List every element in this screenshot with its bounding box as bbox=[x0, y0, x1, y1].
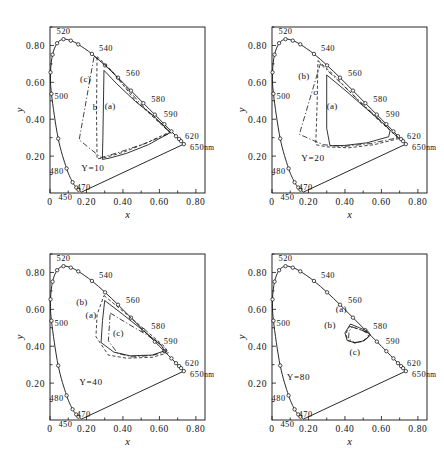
x-tick-label: 0.40 bbox=[113, 197, 132, 207]
y-tick-label: 0.80 bbox=[248, 268, 267, 278]
wavelength-marker bbox=[179, 139, 182, 142]
wavelength-marker bbox=[273, 53, 276, 56]
wavelength-marker bbox=[90, 52, 93, 55]
wavelength-label-500: 500 bbox=[54, 319, 68, 328]
wavelength-label-650: 650nm bbox=[190, 143, 215, 152]
luminance-label: Y=10 bbox=[81, 163, 104, 173]
region-label-c: (c) bbox=[113, 328, 124, 338]
y-tick-label: 0.60 bbox=[26, 78, 45, 88]
luminance-label: Y=80 bbox=[287, 372, 310, 382]
x-tick-label: 0.60 bbox=[150, 197, 169, 207]
wavelength-marker bbox=[129, 89, 132, 92]
region-label-b: (b) bbox=[324, 320, 335, 330]
wavelength-label-500: 500 bbox=[54, 92, 68, 101]
nm-unit: nm bbox=[204, 370, 214, 379]
wavelength-marker bbox=[364, 101, 367, 104]
wavelength-marker bbox=[351, 316, 354, 319]
wavelength-marker bbox=[291, 39, 294, 42]
region-label-a: (a) bbox=[105, 101, 116, 111]
x-tick-label: 0 bbox=[269, 424, 274, 434]
wavelength-marker bbox=[338, 76, 341, 79]
wavelength-marker bbox=[49, 71, 52, 74]
y-tick-label: 0.20 bbox=[26, 152, 45, 162]
wavelength-label-520: 520 bbox=[56, 27, 70, 36]
x-tick-label: 0.80 bbox=[186, 424, 205, 434]
wavelength-marker bbox=[57, 364, 60, 367]
region-label-a: (a) bbox=[327, 101, 338, 111]
wavelength-marker bbox=[375, 340, 378, 343]
x-axis-title: x bbox=[346, 209, 352, 220]
wavelength-marker bbox=[325, 64, 328, 67]
x-tick-label: 0.20 bbox=[299, 197, 318, 207]
wavelength-marker bbox=[385, 350, 388, 353]
wavelength-marker bbox=[401, 366, 404, 369]
y-axis-title: y bbox=[14, 107, 25, 113]
wavelength-marker bbox=[50, 319, 53, 322]
nm-unit: nm bbox=[426, 143, 436, 152]
y-tick-label: 0.40 bbox=[26, 115, 45, 125]
nm-unit: nm bbox=[426, 370, 436, 379]
x-axis-title: x bbox=[124, 209, 130, 220]
wavelength-marker bbox=[375, 113, 378, 116]
wavelength-marker bbox=[69, 266, 72, 269]
y-axis-title: y bbox=[14, 334, 25, 340]
wavelength-marker bbox=[287, 167, 290, 170]
region-label-b: b bbox=[93, 102, 98, 112]
y-tick-label: 0.40 bbox=[248, 342, 267, 352]
wavelength-marker bbox=[71, 408, 74, 411]
x-tick-label: 0.80 bbox=[408, 424, 427, 434]
wavelength-label-520: 520 bbox=[278, 27, 292, 36]
region-label-b: (b) bbox=[76, 297, 87, 307]
x-tick-label: 0.80 bbox=[186, 197, 205, 207]
plot-frame bbox=[272, 27, 427, 193]
x-tick-label: 0.80 bbox=[408, 197, 427, 207]
chromaticity-diagram-20: 00.200.400.600.800.200.400.600.804504704… bbox=[222, 0, 444, 227]
wavelength-label-500: 500 bbox=[276, 92, 290, 101]
wavelength-marker bbox=[404, 369, 407, 372]
wavelength-marker bbox=[174, 134, 177, 137]
x-tick-label: 0.20 bbox=[77, 424, 96, 434]
x-tick-label: 0.40 bbox=[113, 424, 132, 434]
x-tick-label: 0 bbox=[47, 424, 52, 434]
plot-frame bbox=[50, 27, 205, 193]
y-tick-label: 0.40 bbox=[248, 115, 267, 125]
wavelength-marker bbox=[55, 269, 58, 272]
region-label-c: c bbox=[313, 87, 317, 97]
x-tick-label: 0.20 bbox=[77, 197, 96, 207]
wavelength-marker bbox=[182, 142, 185, 145]
wavelength-marker bbox=[170, 357, 173, 360]
wavelength-label-590: 590 bbox=[164, 110, 178, 119]
x-tick-label: 0.40 bbox=[335, 197, 354, 207]
x-tick-label: 0.60 bbox=[372, 424, 391, 434]
wavelength-label-620: 620 bbox=[185, 132, 199, 141]
wavelength-label-480: 480 bbox=[50, 167, 64, 176]
x-tick-label: 0.40 bbox=[335, 424, 354, 434]
wavelength-label-560: 560 bbox=[348, 296, 362, 305]
wavelength-marker bbox=[279, 137, 282, 140]
y-tick-label: 0.60 bbox=[248, 305, 267, 315]
wavelength-label-620: 620 bbox=[407, 132, 421, 141]
wavelength-marker bbox=[271, 71, 274, 74]
wavelength-marker bbox=[404, 142, 407, 145]
chromaticity-diagram-80: 00.200.400.600.800.200.400.600.804504704… bbox=[222, 227, 444, 454]
wavelength-label-480: 480 bbox=[272, 394, 286, 403]
y-tick-label: 0.20 bbox=[26, 379, 45, 389]
luminance-label: Y=20 bbox=[301, 153, 324, 163]
wavelength-marker bbox=[62, 37, 65, 40]
wavelength-marker bbox=[50, 92, 53, 95]
wavelength-marker bbox=[51, 53, 54, 56]
wavelength-label-450: 450 bbox=[280, 193, 294, 202]
x-tick-label: 0.20 bbox=[299, 424, 318, 434]
wavelength-label-650: 650nm bbox=[190, 370, 215, 379]
wavelength-label-650: 650nm bbox=[412, 370, 437, 379]
wavelength-marker bbox=[299, 270, 302, 273]
region-label-c: (c) bbox=[350, 347, 361, 357]
wavelength-label-560: 560 bbox=[126, 69, 140, 78]
wavelength-marker bbox=[291, 266, 294, 269]
x-tick-label: 0.60 bbox=[372, 197, 391, 207]
wavelength-marker bbox=[49, 298, 52, 301]
wavelength-marker bbox=[62, 264, 65, 267]
wavelength-label-580: 580 bbox=[151, 322, 165, 331]
wavelength-marker bbox=[273, 280, 276, 283]
wavelength-label-590: 590 bbox=[386, 110, 400, 119]
